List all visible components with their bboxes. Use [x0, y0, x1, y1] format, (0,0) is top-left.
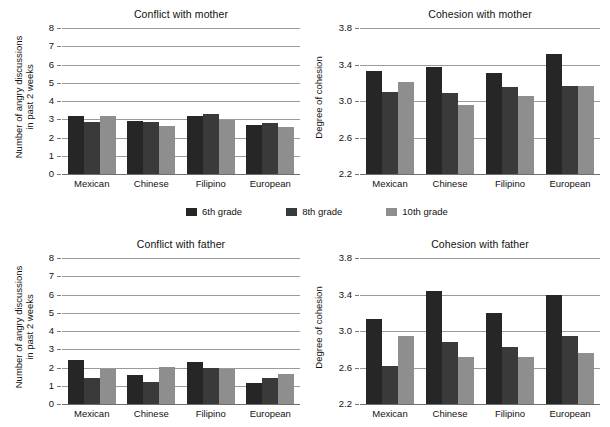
x-axis-label: Chinese [122, 408, 182, 419]
legend-item-6th: 6th grade [186, 206, 242, 217]
x-axis-labels: MexicanChineseFilipinoEuropean [62, 408, 300, 419]
x-axis-label: Chinese [420, 408, 480, 419]
x-axis-label: Chinese [122, 178, 182, 189]
y-tick-mark [57, 138, 61, 139]
legend-spacer [242, 211, 286, 212]
bar [246, 125, 262, 174]
bar [219, 120, 235, 174]
bar [518, 357, 534, 404]
y-tick-label: 0 [22, 168, 54, 179]
legend-label: 6th grade [202, 206, 242, 217]
x-axis-label: Mexican [62, 408, 122, 419]
bar [278, 127, 294, 174]
legend-spacer [342, 211, 386, 212]
y-tick-label: 3 [22, 113, 54, 124]
x-axis-label: Filipino [181, 178, 241, 189]
y-tick-mark [57, 156, 61, 157]
bar [502, 87, 518, 174]
bar [159, 126, 175, 174]
bar-group [62, 258, 122, 404]
y-tick-mark [355, 368, 359, 369]
y-tick-label: 3.8 [320, 22, 352, 33]
x-axis-label: Mexican [360, 178, 420, 189]
bar [546, 295, 562, 405]
y-tick-label: 3.0 [320, 325, 352, 336]
x-axis-line [62, 404, 300, 405]
bar [562, 336, 578, 404]
bar [187, 116, 203, 174]
y-tick-label: 2.2 [320, 398, 352, 409]
legend-label: 10th grade [402, 206, 447, 217]
bar [278, 374, 294, 404]
y-tick-mark [57, 83, 61, 84]
bar-group [360, 28, 420, 174]
bar [262, 378, 278, 404]
y-tick-mark [355, 65, 359, 66]
y-tick-mark [57, 295, 61, 296]
bar [159, 367, 175, 404]
y-tick-label: 4 [22, 95, 54, 106]
bar [426, 291, 442, 404]
bar [127, 375, 143, 404]
legend-swatch-icon [186, 208, 197, 216]
x-axis-label: Filipino [181, 408, 241, 419]
bar-group [420, 28, 480, 174]
plot-area: 2.22.63.03.43.8 [360, 258, 600, 404]
y-tick-mark [57, 276, 61, 277]
bar-group [480, 258, 540, 404]
bar [502, 347, 518, 404]
bar [68, 116, 84, 174]
plot-area: 2.22.63.03.43.8 [360, 28, 600, 174]
y-tick-label: 1 [22, 380, 54, 391]
chart-title: Conflict with mother [62, 8, 300, 20]
y-tick-label: 3.4 [320, 59, 352, 70]
y-tick-label: 7 [22, 40, 54, 51]
bar-group [540, 258, 600, 404]
chart-panel-conflict-with-father: Conflict with fatherNumber of angry disc… [4, 236, 304, 426]
bar [100, 116, 116, 174]
y-tick-label: 2.6 [320, 362, 352, 373]
bar [458, 105, 474, 174]
y-tick-label: 2.2 [320, 168, 352, 179]
chart-title: Conflict with father [62, 238, 300, 250]
y-tick-label: 2.6 [320, 132, 352, 143]
y-tick-label: 1 [22, 150, 54, 161]
x-axis-labels: MexicanChineseFilipinoEuropean [360, 408, 600, 419]
chart-panel-cohesion-with-father: Cohesion with fatherDegree of cohesion2.… [304, 236, 606, 426]
bar-group [181, 28, 241, 174]
legend-swatch-icon [286, 208, 297, 216]
x-axis-label: Mexican [62, 178, 122, 189]
bar-group [360, 258, 420, 404]
plot-area: 012345678 [62, 28, 300, 174]
bar [398, 336, 414, 404]
y-tick-mark [57, 174, 61, 175]
bar [219, 369, 235, 404]
bar-group [241, 28, 301, 174]
bar-group [122, 258, 182, 404]
y-tick-mark [57, 258, 61, 259]
y-tick-mark [57, 386, 61, 387]
y-tick-mark [57, 101, 61, 102]
x-axis-label: Chinese [420, 178, 480, 189]
y-tick-mark [57, 46, 61, 47]
legend-swatch-icon [386, 208, 397, 216]
x-axis-label: Filipino [480, 408, 540, 419]
bar [100, 369, 116, 404]
bar-groups [360, 28, 600, 174]
y-tick-mark [57, 65, 61, 66]
bar [262, 123, 278, 174]
bar [486, 313, 502, 404]
bar [143, 122, 159, 174]
y-tick-label: 8 [22, 252, 54, 263]
x-axis-label: European [241, 178, 301, 189]
bar [366, 71, 382, 174]
bar [518, 96, 534, 174]
bar [382, 366, 398, 404]
bar [562, 86, 578, 175]
bar [546, 54, 562, 174]
y-tick-label: 5 [22, 77, 54, 88]
y-tick-mark [355, 101, 359, 102]
plot-area: 012345678 [62, 258, 300, 404]
x-axis-line [360, 404, 600, 405]
chart-panel-conflict-with-mother: Conflict with motherNumber of angry disc… [4, 6, 304, 198]
